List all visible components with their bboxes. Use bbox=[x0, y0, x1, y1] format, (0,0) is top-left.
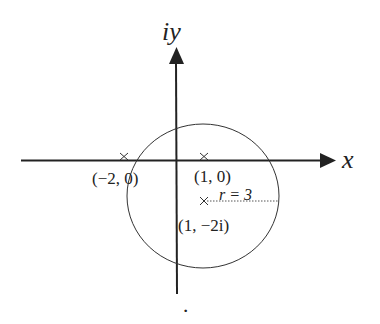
x-axis-label: x bbox=[341, 145, 354, 174]
y-axis bbox=[176, 60, 177, 294]
diagram-canvas: iy x (−2, 0) (1, 0) r = 3 (1, −2i) · bbox=[0, 0, 380, 324]
point-label-1-neg2i: (1, −2i) bbox=[178, 216, 229, 235]
cross-marker-icon bbox=[120, 153, 128, 160]
point-label-1-0: (1, 0) bbox=[194, 167, 231, 186]
footer-dot: · bbox=[182, 298, 189, 323]
point-label-neg2-0: (−2, 0) bbox=[92, 169, 138, 188]
x-axis-arrow-icon bbox=[320, 153, 336, 168]
y-axis-arrow-icon bbox=[169, 47, 184, 64]
y-axis-label: iy bbox=[162, 17, 181, 46]
complex-plane-diagram: iy x (−2, 0) (1, 0) r = 3 (1, −2i) · bbox=[0, 0, 380, 324]
cross-marker-icon bbox=[200, 153, 208, 160]
radius-label: r = 3 bbox=[219, 186, 252, 203]
cross-marker-icon bbox=[200, 197, 208, 205]
circle bbox=[127, 124, 279, 268]
